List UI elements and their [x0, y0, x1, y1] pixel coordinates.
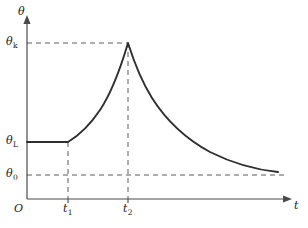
y-tick-theta-0: θ0 [6, 168, 17, 179]
x-tick-t1-main: t [63, 202, 67, 215]
x-tick-t2: t2 [123, 203, 132, 214]
plot-canvas [0, 0, 308, 228]
x-tick-t1-sub: 1 [68, 208, 73, 217]
y-tick-theta-k: θk [6, 36, 17, 47]
y-tick-theta-k-sub: k [13, 41, 18, 50]
y-tick-theta-L-sub: L [13, 140, 18, 149]
x-tick-t2-sub: 2 [128, 208, 133, 217]
temperature-vs-time-figure: θ t O θk θL θ0 t1 t2 [0, 0, 308, 228]
y-tick-theta-L-main: θ [6, 134, 13, 147]
x-tick-t1: t1 [63, 203, 72, 214]
x-axis-label: t [294, 200, 298, 211]
temperature-curve [27, 43, 278, 172]
y-tick-theta-k-main: θ [6, 35, 13, 48]
y-tick-theta-0-sub: 0 [13, 173, 18, 182]
y-tick-theta-L: θL [6, 135, 18, 146]
y-tick-theta-0-main: θ [6, 167, 13, 180]
origin-label: O [14, 203, 23, 214]
x-axis-arrowhead [283, 195, 292, 202]
y-axis-label: θ [18, 6, 25, 17]
x-tick-t2-main: t [123, 202, 127, 215]
